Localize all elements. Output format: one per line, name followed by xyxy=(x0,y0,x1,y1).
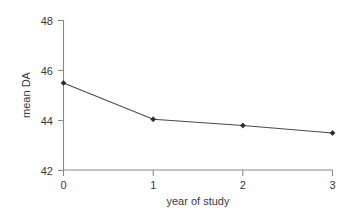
y-tick-label-44: 44 xyxy=(41,115,53,127)
y-tick-label-46: 46 xyxy=(41,65,53,77)
x-axis-title: year of study xyxy=(167,195,230,207)
series-line-mean-da xyxy=(64,83,333,133)
chart-container: 48 46 44 42 0 1 2 3 year of study mean D… xyxy=(0,0,361,214)
x-tick-label-2: 2 xyxy=(240,179,246,191)
data-point-marker xyxy=(61,80,66,85)
data-point-marker xyxy=(330,130,335,135)
y-tick-label-48: 48 xyxy=(41,15,53,27)
x-tick-label-0: 0 xyxy=(60,179,66,191)
x-tick-label-1: 1 xyxy=(150,179,156,191)
series-markers xyxy=(61,80,335,135)
y-axis-title: mean DA xyxy=(20,71,32,118)
data-point-marker xyxy=(151,117,156,122)
line-chart: 48 46 44 42 0 1 2 3 year of study mean D… xyxy=(0,0,361,214)
x-tick-label-3: 3 xyxy=(329,179,335,191)
data-point-marker xyxy=(240,123,245,128)
y-tick-label-42: 42 xyxy=(41,165,53,177)
